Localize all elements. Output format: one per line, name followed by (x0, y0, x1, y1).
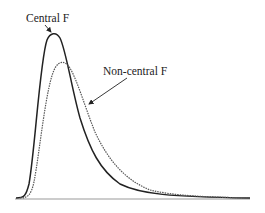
noncentral-f-label: Non-central F (103, 65, 167, 77)
noncentral-f-curve (20, 62, 250, 198)
central-f-curve (16, 34, 250, 198)
noncentral-f-arrow (89, 78, 127, 104)
central-f-label: Central F (26, 12, 69, 24)
chart: Central F Non-central F (0, 0, 265, 213)
central-f-arrow (45, 25, 51, 32)
